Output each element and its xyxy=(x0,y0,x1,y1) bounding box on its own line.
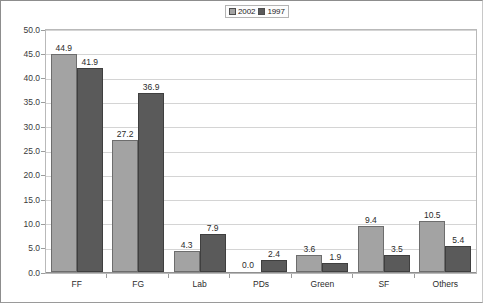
bar-group: 4.37.9 xyxy=(174,29,226,272)
y-axis-tick: 5.0 xyxy=(28,243,45,254)
y-axis-tick: 40.0 xyxy=(23,73,45,84)
bar-others-1997[interactable]: 5.4 xyxy=(445,246,471,272)
bar-value-label: 41.9 xyxy=(81,57,98,67)
y-axis-tick: 15.0 xyxy=(23,195,45,206)
x-axis-label-others: Others xyxy=(433,279,459,290)
x-axis: FFFGLabPDsGreenSFOthers xyxy=(45,274,477,294)
legend-item-2002[interactable]: 2002 xyxy=(229,7,255,16)
bar-others-2002[interactable]: 10.5 xyxy=(419,221,445,272)
bar-sf-1997[interactable]: 3.5 xyxy=(384,255,410,272)
x-axis-label-sf: SF xyxy=(378,279,389,290)
bar-value-label: 3.5 xyxy=(391,244,403,254)
legend-swatch-1997-icon xyxy=(258,8,265,15)
bar-value-label: 36.9 xyxy=(143,82,160,92)
bar-value-label: 7.9 xyxy=(207,223,219,233)
x-axis-tick-mark xyxy=(229,274,230,278)
y-axis-tick: 30.0 xyxy=(23,122,45,133)
bar-green-2002[interactable]: 3.6 xyxy=(296,255,322,272)
x-axis-tick-mark xyxy=(291,274,292,278)
bar-value-label: 44.9 xyxy=(55,43,72,53)
x-axis-tick-mark xyxy=(352,274,353,278)
bar-ff-2002[interactable]: 44.9 xyxy=(51,54,77,272)
legend-label-1997: 1997 xyxy=(267,7,284,16)
x-axis-label-green: Green xyxy=(311,279,335,290)
x-axis-label-ff: FF xyxy=(72,279,82,290)
bar-group: 27.236.9 xyxy=(112,29,164,272)
bar-group: 10.55.4 xyxy=(419,29,471,272)
x-axis-label-pds: PDs xyxy=(253,279,269,290)
y-axis-tick: 10.0 xyxy=(23,219,45,230)
bar-fg-2002[interactable]: 27.2 xyxy=(112,140,138,272)
y-axis-tick: 20.0 xyxy=(23,170,45,181)
bar-value-label: 3.6 xyxy=(304,244,316,254)
x-axis-tick-mark xyxy=(168,274,169,278)
legend-item-1997[interactable]: 1997 xyxy=(258,7,284,16)
bar-group: 9.43.5 xyxy=(358,29,410,272)
chart-legend: 2002 1997 xyxy=(225,5,289,18)
bar-lab-2002[interactable]: 4.3 xyxy=(174,251,200,272)
bar-value-label: 1.9 xyxy=(330,252,342,262)
legend-swatch-2002-icon xyxy=(229,8,236,15)
bar-group: 0.02.4 xyxy=(235,29,287,272)
y-axis-tick: 50.0 xyxy=(23,25,45,36)
bar-green-1997[interactable]: 1.9 xyxy=(322,263,348,272)
bar-group: 3.61.9 xyxy=(296,29,348,272)
x-axis-label-lab: Lab xyxy=(192,279,206,290)
legend-label-2002: 2002 xyxy=(238,7,255,16)
x-axis-tick-mark xyxy=(414,274,415,278)
y-axis: 50.045.040.035.030.025.020.015.010.05.00… xyxy=(1,29,45,274)
bar-value-label: 10.5 xyxy=(424,210,441,220)
bar-lab-1997[interactable]: 7.9 xyxy=(200,234,226,272)
bar-value-label: 9.4 xyxy=(365,215,377,225)
bar-value-label: 5.4 xyxy=(452,235,464,245)
bar-value-label: 27.2 xyxy=(117,129,134,139)
plot-area: 44.941.927.236.94.37.90.02.43.61.99.43.5… xyxy=(45,29,477,274)
x-axis-label-fg: FG xyxy=(132,279,144,290)
y-axis-tick: 35.0 xyxy=(23,97,45,108)
bar-ff-1997[interactable]: 41.9 xyxy=(77,68,103,272)
bar-pds-1997[interactable]: 2.4 xyxy=(261,260,287,272)
x-axis-tick-mark xyxy=(106,274,107,278)
bar-value-label: 0.0 xyxy=(242,260,254,270)
bar-fg-1997[interactable]: 36.9 xyxy=(138,93,164,272)
bar-sf-2002[interactable]: 9.4 xyxy=(358,226,384,272)
y-axis-tick: 25.0 xyxy=(23,146,45,157)
bar-group: 44.941.9 xyxy=(51,29,103,272)
y-axis-tick: 45.0 xyxy=(23,49,45,60)
x-axis-baseline xyxy=(46,272,476,273)
chart-frame: 2002 1997 50.045.040.035.030.025.020.015… xyxy=(0,0,483,303)
y-axis-tick: 0.0 xyxy=(28,268,45,279)
bar-value-label: 2.4 xyxy=(268,249,280,259)
bar-value-label: 4.3 xyxy=(181,240,193,250)
